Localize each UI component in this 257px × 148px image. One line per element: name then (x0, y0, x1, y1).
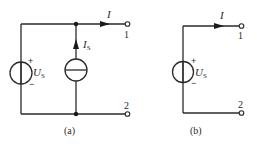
terminal-b-1 (239, 24, 244, 29)
voltage-minus-sign-b: − (191, 79, 196, 88)
terminal-label-b-2: 2 (238, 100, 243, 110)
voltage-plus-sign-a: + (28, 57, 33, 66)
voltage-source-label-a: US (33, 67, 45, 80)
current-source-arrow-icon (73, 39, 79, 49)
voltage-source-label-b: US (195, 67, 207, 80)
current-direction-arrow-icon (214, 23, 224, 29)
circuit-figure: + US − IS I 1 2 (a) + US − I 1 2 (b) (0, 0, 257, 148)
junction-dot-bottom (74, 112, 78, 116)
circuit-b (173, 23, 244, 115)
junction-dot-top (74, 22, 78, 26)
terminal-b-2 (239, 111, 244, 116)
caption-a: (a) (64, 126, 75, 136)
voltage-plus-sign-b: + (191, 57, 196, 66)
current-label-a: I (107, 9, 111, 20)
terminal-a-2 (125, 112, 130, 117)
current-source-label-a: IS (83, 39, 91, 52)
terminal-label-b-1: 1 (238, 31, 243, 41)
current-direction-arrow-icon (100, 21, 110, 27)
terminal-label-a-1: 1 (124, 30, 129, 40)
caption-b: (b) (190, 126, 202, 136)
voltage-minus-sign-a: − (29, 80, 34, 89)
terminal-a-1 (125, 22, 130, 27)
terminal-label-a-2: 2 (124, 101, 129, 111)
current-label-b: I (220, 10, 224, 21)
circuit-a (10, 21, 130, 116)
